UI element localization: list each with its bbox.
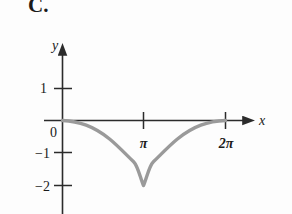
- y-tick-label-1: 1: [40, 81, 47, 96]
- figure-container: C. y x 1 0 −1 −2 π: [0, 0, 292, 214]
- y-tick-label-neg1: −1: [35, 146, 50, 161]
- x-tick-label-pi: π: [140, 136, 148, 151]
- coordinate-plot: y x 1 0 −1 −2 π 2π: [0, 0, 292, 214]
- function-curve: [63, 121, 226, 186]
- x-axis-label: x: [258, 113, 266, 128]
- y-axis-label: y: [50, 38, 59, 53]
- y-tick-label-0: 0: [50, 125, 57, 140]
- y-tick-label-neg2: −2: [35, 179, 50, 194]
- x-tick-label-2pi: 2π: [218, 136, 234, 151]
